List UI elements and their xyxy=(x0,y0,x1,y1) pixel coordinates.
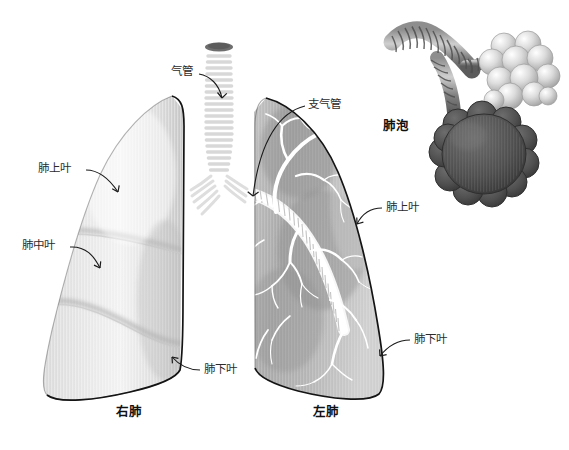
anatomy-illustration xyxy=(0,0,569,450)
caption-right-lung: 右肺 xyxy=(116,406,142,419)
right-lung-body xyxy=(38,90,198,410)
label-alveoli: 肺泡 xyxy=(383,120,409,133)
label-left-lower-lobe: 肺下叶 xyxy=(414,334,447,346)
left-upper-lobe-leader xyxy=(357,208,382,224)
left-lung-body xyxy=(244,92,398,412)
label-bronchus: 支气管 xyxy=(308,99,341,111)
left-lower-lobe-leader xyxy=(380,340,410,356)
alveolar-sac xyxy=(429,101,539,207)
label-trachea: 气管 xyxy=(171,66,193,78)
lung-anatomy-figure: 气管 肺上叶 肺中叶 肺下叶 支气管 肺上叶 肺下叶 肺泡 右肺 左肺 xyxy=(0,0,569,450)
alveoli-inset xyxy=(392,27,560,208)
bronchiole-tube xyxy=(392,27,496,114)
caption-left-lung: 左肺 xyxy=(313,406,339,419)
label-right-upper-lobe: 肺上叶 xyxy=(38,163,71,175)
label-right-middle-lobe: 肺中叶 xyxy=(22,240,55,252)
label-right-lower-lobe: 肺下叶 xyxy=(204,364,237,376)
trachea-tube xyxy=(191,42,247,214)
alveolar-cluster xyxy=(479,31,560,110)
label-left-upper-lobe: 肺上叶 xyxy=(386,202,419,214)
